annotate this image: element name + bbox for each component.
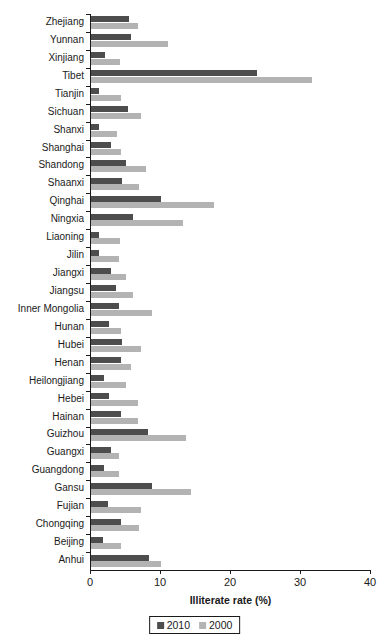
bar-2010 bbox=[91, 465, 104, 471]
category-tick bbox=[86, 337, 90, 338]
bar-2000 bbox=[91, 364, 131, 370]
bar-row: Shandong bbox=[90, 157, 370, 175]
bar-row: Chongqing bbox=[90, 516, 370, 534]
bar-2000 bbox=[91, 453, 119, 459]
category-tick bbox=[86, 498, 90, 499]
bar-row: Shanxi bbox=[90, 122, 370, 140]
bar-2000 bbox=[91, 400, 138, 406]
bar-row: Jiangxi bbox=[90, 265, 370, 283]
category-label: Shandong bbox=[38, 160, 84, 170]
bar-row: Hubei bbox=[90, 337, 370, 355]
bar-2010 bbox=[91, 124, 99, 130]
x-tick bbox=[160, 570, 161, 574]
bar-2010 bbox=[91, 429, 148, 435]
bar-row: Qinghai bbox=[90, 193, 370, 211]
bar-row: Zhejiang bbox=[90, 14, 370, 32]
category-tick bbox=[86, 409, 90, 410]
bar-2000 bbox=[91, 561, 161, 567]
category-tick bbox=[86, 444, 90, 445]
bar-2010 bbox=[91, 196, 161, 202]
category-label: Jiangxi bbox=[53, 268, 84, 278]
bar-2000 bbox=[91, 256, 119, 262]
category-tick bbox=[86, 32, 90, 33]
bar-row: Anhui bbox=[90, 552, 370, 570]
bar-row: Jilin bbox=[90, 247, 370, 265]
x-tick bbox=[370, 570, 371, 574]
x-tick-label: 30 bbox=[285, 576, 315, 588]
category-tick bbox=[86, 462, 90, 463]
bar-row: Guangdong bbox=[90, 462, 370, 480]
bar-2010 bbox=[91, 106, 128, 112]
bar-2010 bbox=[91, 16, 129, 22]
bar-2010 bbox=[91, 393, 109, 399]
bar-2010 bbox=[91, 357, 121, 363]
category-tick bbox=[86, 516, 90, 517]
category-tick bbox=[86, 14, 90, 15]
category-tick bbox=[86, 104, 90, 105]
bar-2000 bbox=[91, 149, 121, 155]
category-tick bbox=[86, 140, 90, 141]
category-label: Jilin bbox=[67, 250, 84, 260]
category-label: Ningxia bbox=[51, 214, 84, 224]
bar-row: Hainan bbox=[90, 409, 370, 427]
category-tick bbox=[86, 211, 90, 212]
legend-swatch-icon bbox=[199, 622, 206, 629]
category-tick bbox=[86, 319, 90, 320]
category-label: Guangdong bbox=[32, 465, 84, 475]
category-tick bbox=[86, 534, 90, 535]
category-tick bbox=[86, 301, 90, 302]
bar-2010 bbox=[91, 285, 116, 291]
category-tick bbox=[86, 247, 90, 248]
bar-row: Guizhou bbox=[90, 427, 370, 445]
bar-row: Xinjiang bbox=[90, 50, 370, 68]
bar-2010 bbox=[91, 214, 133, 220]
x-tick bbox=[230, 570, 231, 574]
bar-row: Yunnan bbox=[90, 32, 370, 50]
category-tick bbox=[86, 480, 90, 481]
bar-2000 bbox=[91, 77, 312, 83]
bar-row: Shaanxi bbox=[90, 175, 370, 193]
category-label: Inner Mongolia bbox=[18, 304, 84, 314]
category-tick bbox=[86, 373, 90, 374]
category-tick bbox=[86, 157, 90, 158]
bar-2000 bbox=[91, 489, 191, 495]
legend-label: 2010 bbox=[167, 619, 190, 631]
bar-2010 bbox=[91, 555, 149, 561]
bar-2010 bbox=[91, 375, 104, 381]
bar-row: Tianjin bbox=[90, 86, 370, 104]
bar-2010 bbox=[91, 70, 257, 76]
bar-2000 bbox=[91, 525, 139, 531]
bar-2000 bbox=[91, 292, 133, 298]
category-label: Beijing bbox=[54, 537, 84, 547]
category-tick bbox=[86, 68, 90, 69]
category-tick bbox=[86, 427, 90, 428]
bar-2010 bbox=[91, 447, 111, 453]
bar-2010 bbox=[91, 142, 111, 148]
bar-2000 bbox=[91, 346, 141, 352]
category-label: Shanxi bbox=[53, 125, 84, 135]
bar-row: Fujian bbox=[90, 498, 370, 516]
bar-2000 bbox=[91, 202, 214, 208]
bar-row: Liaoning bbox=[90, 229, 370, 247]
category-label: Shanghai bbox=[42, 143, 84, 153]
category-label: Guangxi bbox=[47, 447, 84, 457]
bar-2010 bbox=[91, 519, 121, 525]
category-label: Jiangsu bbox=[50, 286, 84, 296]
bar-2010 bbox=[91, 321, 109, 327]
category-label: Yunnan bbox=[50, 35, 84, 45]
legend-label: 2000 bbox=[209, 619, 232, 631]
category-label: Shaanxi bbox=[48, 178, 84, 188]
bar-2000 bbox=[91, 328, 121, 334]
bar-row: Inner Mongolia bbox=[90, 301, 370, 319]
bar-2010 bbox=[91, 411, 121, 417]
category-tick bbox=[86, 193, 90, 194]
bar-row: Hebei bbox=[90, 391, 370, 409]
bar-2010 bbox=[91, 268, 111, 274]
bar-2010 bbox=[91, 483, 152, 489]
category-tick bbox=[86, 355, 90, 356]
x-tick bbox=[300, 570, 301, 574]
bar-2000 bbox=[91, 95, 121, 101]
category-label: Sichuan bbox=[48, 107, 84, 117]
x-tick-label: 20 bbox=[215, 576, 245, 588]
bar-2010 bbox=[91, 232, 99, 238]
